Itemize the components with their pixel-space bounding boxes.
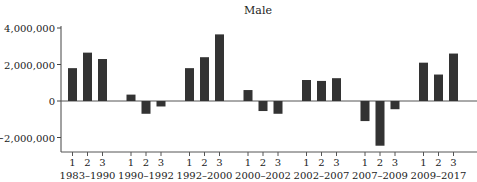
- x-group-label: 1990–1992: [118, 170, 174, 181]
- x-group-label: 1983–1990: [60, 170, 116, 181]
- bar: [185, 68, 194, 101]
- x-sub-label: 1: [303, 157, 309, 168]
- x-group-label: 2000–2002: [235, 170, 291, 181]
- bar: [449, 54, 458, 101]
- bar: [142, 101, 151, 114]
- x-sub-label: 2: [201, 157, 207, 168]
- bar: [419, 63, 428, 101]
- x-axis: 1231983–19901231990–19921231992–20001232…: [60, 152, 467, 181]
- bar: [259, 101, 268, 111]
- x-sub-label: 1: [69, 157, 75, 168]
- bar: [68, 68, 77, 101]
- x-sub-label: 3: [158, 157, 164, 168]
- bar: [391, 101, 400, 109]
- x-sub-label: 3: [333, 157, 339, 168]
- bar: [200, 57, 209, 101]
- bar: [317, 81, 326, 101]
- x-sub-label: 1: [362, 157, 368, 168]
- bar: [376, 101, 385, 146]
- x-sub-label: 3: [450, 157, 456, 168]
- x-sub-label: 1: [245, 157, 251, 168]
- y-tick-label: 2,000,000: [4, 60, 55, 71]
- x-sub-label: 3: [392, 157, 398, 168]
- x-sub-label: 2: [377, 157, 383, 168]
- bar: [83, 53, 92, 101]
- x-group-label: 2002–2007: [294, 170, 350, 181]
- x-sub-label: 2: [143, 157, 149, 168]
- x-sub-label: 1: [186, 157, 192, 168]
- bar: [157, 101, 166, 106]
- bar: [215, 34, 224, 101]
- y-tick-label: 4,000,000: [4, 23, 55, 34]
- bar-chart: Male 4,000,0002,000,0000−2,000,000 12319…: [0, 0, 477, 182]
- y-tick-label: 0: [49, 96, 55, 107]
- chart-title: Male: [244, 4, 272, 17]
- y-tick-label: −2,000,000: [0, 133, 55, 144]
- bar: [98, 59, 107, 101]
- x-sub-label: 1: [128, 157, 134, 168]
- x-group-label: 2007–2009: [352, 170, 408, 181]
- bar: [127, 95, 136, 101]
- x-sub-label: 2: [318, 157, 324, 168]
- x-sub-label: 1: [420, 157, 426, 168]
- x-group-label: 2009–2017: [411, 170, 467, 181]
- bar: [274, 101, 283, 114]
- bar: [361, 101, 370, 121]
- bar: [434, 75, 443, 101]
- x-group-label: 1992–2000: [177, 170, 233, 181]
- bars: [68, 34, 458, 145]
- x-sub-label: 2: [435, 157, 441, 168]
- x-sub-label: 2: [260, 157, 266, 168]
- bar: [302, 80, 311, 101]
- x-sub-label: 3: [275, 157, 281, 168]
- bar: [332, 78, 341, 101]
- bar: [244, 90, 253, 101]
- x-sub-label: 3: [99, 157, 105, 168]
- x-sub-label: 2: [84, 157, 90, 168]
- chart-canvas: Male 4,000,0002,000,0000−2,000,000 12319…: [0, 0, 477, 182]
- x-sub-label: 3: [216, 157, 222, 168]
